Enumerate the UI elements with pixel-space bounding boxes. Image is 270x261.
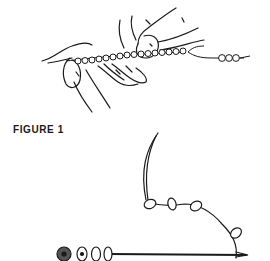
spacer-beads	[143, 197, 244, 240]
thread-loop	[144, 133, 158, 200]
needle-beads	[57, 247, 112, 261]
needle-beads-illustration	[0, 130, 270, 261]
needle	[108, 254, 246, 255]
hands-beading-illustration	[0, 0, 270, 120]
